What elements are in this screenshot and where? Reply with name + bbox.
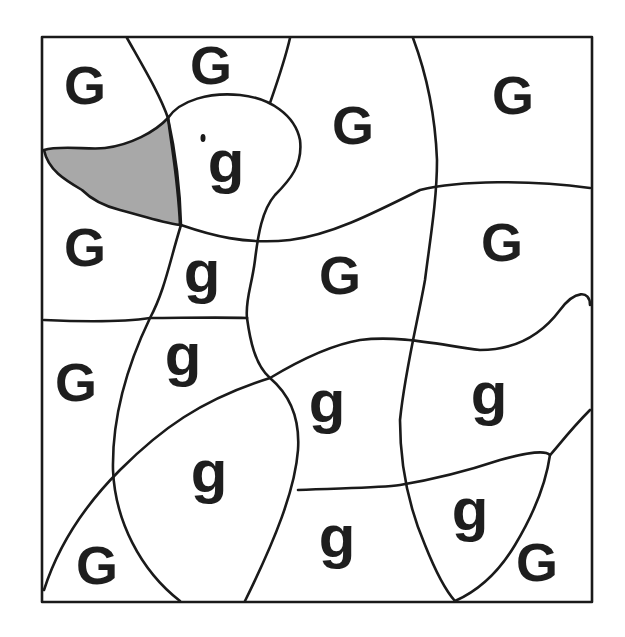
region-letter-upper: G: [64, 220, 106, 274]
region-letter-upper: G: [332, 98, 374, 152]
region-letter-lower: g: [319, 507, 356, 567]
region-letter-upper: G: [64, 58, 106, 112]
region-letter-lower: g: [165, 325, 202, 385]
region-letter-lower: g: [208, 132, 245, 192]
region-letter-upper: G: [492, 68, 534, 122]
region-letter-lower: g: [191, 442, 228, 502]
region-letter-upper: G: [76, 538, 118, 592]
region-letter-upper: G: [55, 355, 97, 409]
region-letter-upper: G: [481, 215, 523, 269]
region-letter-lower: g: [471, 364, 508, 424]
region-letter-lower: g: [452, 480, 489, 540]
eye-dot: [201, 134, 206, 142]
region-letter-lower: g: [184, 242, 221, 302]
region-letter-upper: G: [190, 38, 232, 92]
region-letter-lower: g: [309, 372, 346, 432]
beak-region[interactable]: [44, 118, 180, 225]
region-letter-upper: G: [516, 535, 558, 589]
region-letter-upper: G: [319, 248, 361, 302]
